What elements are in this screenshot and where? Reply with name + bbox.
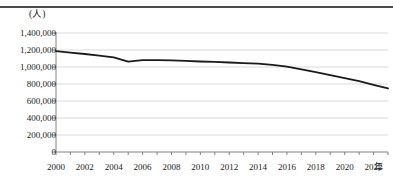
y-axis-tick-label: 0 xyxy=(0,148,56,157)
figure-chart-container: (人) 1,400,0001,200,0001,000,000800,00060… xyxy=(0,0,393,178)
y-axis-tick-label: 600,000 xyxy=(0,97,56,106)
y-axis-tick-label: 1,400,000 xyxy=(0,29,56,38)
y-axis-tick-label: 1,200,000 xyxy=(0,46,56,55)
x-axis-unit-label: 年 xyxy=(374,163,383,172)
data-series-line xyxy=(56,51,388,88)
line-chart-svg xyxy=(0,0,393,178)
plot-area: 1,400,0001,200,0001,000,000800,000600,00… xyxy=(0,0,393,178)
y-axis-tick-label: 200,000 xyxy=(0,131,56,140)
y-axis-tick-label: 1,000,000 xyxy=(0,63,56,72)
y-axis-tick-label: 400,000 xyxy=(0,114,56,123)
y-axis-tick-label: 800,000 xyxy=(0,80,56,89)
